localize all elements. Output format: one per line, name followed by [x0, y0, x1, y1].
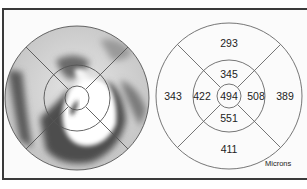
value-inner-right: 508 [247, 90, 265, 102]
etdrs-grid: 494 345 422 508 551 293 343 389 411 Micr… [156, 23, 302, 169]
value-inner-superior: 345 [220, 68, 238, 80]
figure-canvas: 494 345 422 508 551 293 343 389 411 Micr… [0, 0, 307, 189]
value-outer-left: 343 [164, 90, 182, 102]
value-outer-right: 389 [276, 90, 294, 102]
value-inner-inferior: 551 [220, 112, 238, 124]
value-outer-superior: 293 [220, 37, 238, 49]
thickness-map [0, 20, 160, 180]
value-center: 494 [220, 90, 238, 102]
units-label: Microns [265, 159, 292, 168]
value-inner-left: 422 [193, 90, 211, 102]
value-outer-inferior: 411 [221, 143, 238, 155]
